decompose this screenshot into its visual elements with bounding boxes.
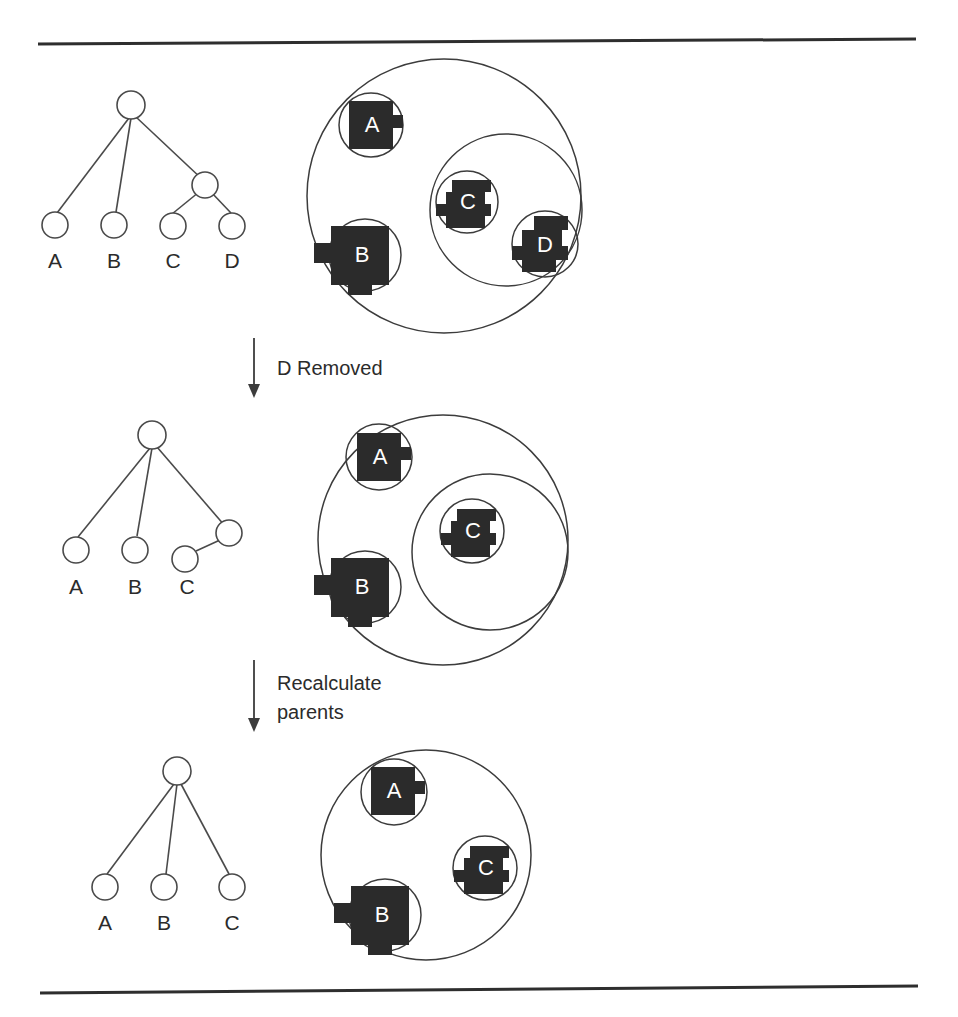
tree2-node-leaf-c xyxy=(172,546,198,572)
object-b-after-removal: B xyxy=(314,558,389,627)
diagram-canvas: A B C D A xyxy=(0,0,958,1017)
tree-node-leaf-d xyxy=(219,213,245,239)
object-b-initial: B xyxy=(314,226,389,295)
bounding-volumes-after-recalculate: A B C xyxy=(321,750,531,960)
bounding-volumes-after-removal: A B C xyxy=(314,415,568,665)
tree-after-recalculate: A B C xyxy=(92,757,245,934)
tree2-node-leaf-a xyxy=(63,537,89,563)
panel-initial: A B C D A xyxy=(42,59,582,333)
tree-node-leaf-b xyxy=(101,212,127,238)
tree2-node-root xyxy=(138,421,166,449)
panel-after-removal: A B C A B C xyxy=(63,415,568,665)
tree3-node-root xyxy=(163,757,191,785)
tree2-node-internal-c xyxy=(216,520,242,546)
tree2-node-leaf-b xyxy=(122,537,148,563)
object-b-letter-3: B xyxy=(375,902,390,927)
tree2-leaf-label-b: B xyxy=(128,575,142,598)
object-c-letter-3: C xyxy=(478,855,494,880)
object-c-after-removal: C xyxy=(441,509,496,557)
transition-d-removed: D Removed xyxy=(248,338,383,398)
object-b-letter-2: B xyxy=(355,574,370,599)
object-c-final: C xyxy=(454,846,509,894)
tree-leaf-label-d: D xyxy=(224,249,239,272)
bottom-divider-rule xyxy=(40,986,918,993)
object-a-initial: A xyxy=(349,101,403,149)
top-divider-rule xyxy=(38,39,916,44)
tree-leaf-label-a: A xyxy=(48,249,62,272)
object-a-after-removal: A xyxy=(357,433,411,481)
transition-recalculate-parents: Recalculate parents xyxy=(248,660,382,732)
object-b-letter: B xyxy=(355,242,370,267)
tree-edge-root-internal xyxy=(136,117,203,180)
object-b-shape xyxy=(314,226,389,295)
figure-root: A B C D A xyxy=(0,0,958,1017)
tree-node-root xyxy=(117,91,145,119)
tree3-leaf-label-c: C xyxy=(224,911,239,934)
transition-arrow-head-2 xyxy=(248,718,260,732)
object-b-shape-3 xyxy=(334,886,409,955)
object-a-final: A xyxy=(371,767,425,815)
object-c-letter-2: C xyxy=(465,518,481,543)
tree-edge3-root-a xyxy=(107,784,174,874)
object-a-letter: A xyxy=(365,112,380,137)
object-c-initial: C xyxy=(436,180,491,228)
transition-arrow-head-1 xyxy=(248,384,260,398)
tree-initial: A B C D xyxy=(42,91,245,272)
tree2-leaf-label-c: C xyxy=(179,575,194,598)
tree3-node-leaf-a xyxy=(92,874,118,900)
tree-edge-internal-c xyxy=(172,192,199,214)
tree3-leaf-label-b: B xyxy=(157,911,171,934)
tree-after-removal: A B C xyxy=(63,421,242,598)
transition-caption-recalculate-line2: parents xyxy=(277,701,344,723)
transition-caption-recalculate-line1: Recalculate xyxy=(277,672,382,694)
object-b-shape-2 xyxy=(314,558,389,627)
bounding-volumes-initial: A B C D xyxy=(307,59,582,333)
tree-leaf-label-c: C xyxy=(165,249,180,272)
tree-node-leaf-a xyxy=(42,212,68,238)
tree-node-leaf-c xyxy=(160,213,186,239)
object-a-letter-3: A xyxy=(387,778,402,803)
tree2-leaf-label-a: A xyxy=(69,575,83,598)
object-c-letter: C xyxy=(460,189,476,214)
tree-edge2-internal-c xyxy=(196,540,220,551)
object-b-final: B xyxy=(334,886,409,955)
transition-caption-d-removed: D Removed xyxy=(277,357,383,379)
object-d-letter: D xyxy=(537,232,553,257)
tree-leaf-label-b: B xyxy=(107,249,121,272)
tree-edge3-root-b xyxy=(166,784,177,874)
tree-edge3-root-c xyxy=(181,784,229,874)
panel-after-recalculate: A B C A B C xyxy=(92,750,531,960)
tree-node-internal-cd xyxy=(192,172,218,198)
tree3-node-leaf-c xyxy=(219,874,245,900)
tree3-node-leaf-b xyxy=(151,874,177,900)
tree-edge2-root-internal xyxy=(157,447,225,526)
tree3-leaf-label-a: A xyxy=(98,911,112,934)
object-a-letter-2: A xyxy=(373,444,388,469)
